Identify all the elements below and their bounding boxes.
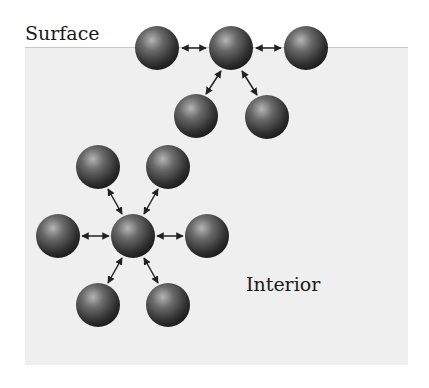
molecule-sphere bbox=[284, 26, 328, 70]
double-arrow-icon bbox=[144, 189, 158, 214]
double-arrow-icon bbox=[242, 71, 257, 95]
molecule-diagram bbox=[0, 0, 429, 388]
molecule-sphere bbox=[146, 145, 190, 189]
molecule-sphere bbox=[209, 26, 253, 70]
double-arrow-icon bbox=[108, 189, 122, 214]
molecule-sphere bbox=[146, 283, 190, 327]
molecule-sphere bbox=[185, 214, 229, 258]
molecule-sphere bbox=[111, 214, 155, 258]
molecule-sphere bbox=[36, 214, 80, 258]
double-arrow-icon bbox=[206, 71, 221, 94]
double-arrow-icon bbox=[144, 258, 158, 283]
interior-label: Interior bbox=[246, 273, 320, 295]
surface-label: Surface bbox=[25, 22, 100, 44]
molecule-sphere bbox=[76, 283, 120, 327]
molecule-sphere bbox=[245, 95, 289, 139]
molecule-sphere bbox=[135, 26, 179, 70]
molecule-sphere bbox=[174, 94, 218, 138]
molecule-sphere bbox=[76, 145, 120, 189]
double-arrow-icon bbox=[108, 258, 122, 283]
